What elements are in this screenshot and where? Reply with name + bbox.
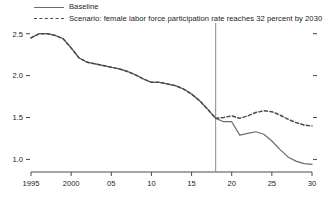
- x-tick-label: 05: [107, 179, 115, 188]
- x-tick-label: 1995: [23, 179, 40, 188]
- x-tick-label: 2000: [63, 179, 80, 188]
- x-tick-label: 25: [268, 179, 276, 188]
- y-tick-group: 1.01.52.02.5: [12, 30, 30, 165]
- series-line-baseline: [31, 34, 312, 165]
- plot-area: 1.01.52.02.5 19952000051015202530: [0, 0, 329, 200]
- series-line-scenario: [31, 34, 312, 126]
- y-tick-label: 2.5: [12, 30, 23, 39]
- x-tick-label: 10: [147, 179, 155, 188]
- y-tick-label: 2.0: [12, 71, 23, 80]
- x-tick-group: 19952000051015202530: [23, 172, 317, 188]
- y-tick-right-group: [313, 34, 317, 160]
- y-tick-label: 1.0: [12, 155, 23, 164]
- chart-container: Baseline Scenario: female labor force pa…: [0, 0, 329, 200]
- x-tick-label: 30: [308, 179, 316, 188]
- x-tick-label: 15: [187, 179, 195, 188]
- series-group: [31, 34, 312, 165]
- y-tick-label: 1.5: [12, 113, 23, 122]
- x-tick-label: 20: [227, 179, 235, 188]
